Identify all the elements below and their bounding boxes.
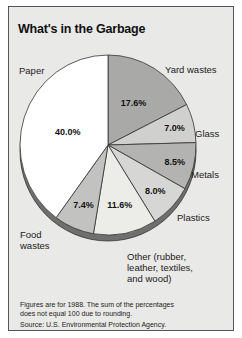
label-metals: Metals (191, 169, 219, 180)
source-note: Source: U.S. Environmental Protection Ag… (20, 320, 166, 329)
label-glass: Glass (195, 128, 220, 139)
pct-label-paper: 40.0% (55, 127, 81, 137)
footnote-line-2: does not equal 100 due to rounding. (20, 309, 132, 318)
pct-label-plastics: 8.0% (145, 186, 166, 196)
pct-label-glass: 7.0% (164, 123, 185, 133)
label-food-wastes-line-1: Food (20, 229, 42, 240)
label-other-line-3: and wood) (127, 273, 171, 284)
pie-chart: 17.6%7.0%8.5%8.0%11.6%7.4%40.0%PaperYard… (0, 0, 242, 338)
label-yard-wastes: Yard wastes (165, 64, 217, 75)
footnote-line-1: Figures are for 1988. The sum of the per… (20, 300, 174, 309)
label-other-line-2: leather, textiles, (127, 262, 193, 273)
label-plastics: Plastics (177, 212, 210, 223)
pct-label-food-wastes: 7.4% (73, 200, 94, 210)
label-other-line-1: Other (rubber, (127, 251, 186, 262)
label-food-wastes-line-2: wastes (19, 240, 50, 251)
pct-label-yard-wastes: 17.6% (121, 98, 147, 108)
pct-label-other: 11.6% (107, 200, 132, 210)
pct-label-metals: 8.5% (164, 157, 185, 167)
label-paper: Paper (19, 65, 44, 76)
